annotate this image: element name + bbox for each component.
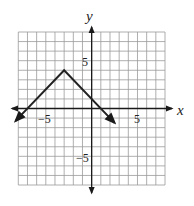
series-line bbox=[16, 70, 115, 123]
x-tick-label-neg5: −5 bbox=[38, 112, 51, 126]
y-axis-label: y bbox=[84, 8, 93, 24]
x-tick-label-5: 5 bbox=[134, 112, 140, 126]
coordinate-graph: y x −5 5 5 −5 bbox=[0, 0, 194, 206]
data-series bbox=[16, 70, 115, 123]
axes bbox=[12, 27, 172, 193]
y-tick-label-neg5: −5 bbox=[76, 151, 89, 165]
x-axis-label: x bbox=[176, 102, 184, 118]
y-tick-label-5: 5 bbox=[82, 55, 88, 69]
axis-labels: y x −5 5 5 −5 bbox=[38, 8, 184, 165]
